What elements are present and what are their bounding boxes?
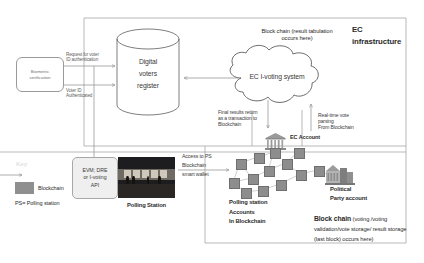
blockchain-node	[258, 186, 269, 197]
biometric-verification-label: Biometricverification	[30, 69, 51, 81]
polling-station-accounts-label: Polling station Accounts In Blockchain	[229, 198, 301, 227]
polling-station-caption: Polling Station	[116, 202, 177, 209]
biometric-verification-box[interactable]: Biometricverification	[16, 57, 64, 92]
photo-person	[158, 176, 161, 184]
realtime-parsing-label: Real-time vote parsing From Blockchain	[318, 113, 370, 131]
blockchain-node	[296, 170, 307, 181]
photo-person	[126, 176, 129, 184]
blockchain-node	[264, 166, 275, 177]
request-auth-label: Request for voter ID authentication	[66, 52, 114, 63]
legend-title: Key	[16, 160, 27, 167]
access-ps-label: Access to PS Blockchain smart wallet	[182, 152, 228, 179]
ec-ivoting-system-label: EC I-voting system	[236, 73, 318, 81]
blockchain-node	[248, 174, 259, 185]
photo-window	[160, 170, 167, 178]
photo-person	[132, 176, 135, 184]
polling-station-photo	[118, 157, 175, 198]
political-party-building-icon	[325, 164, 355, 185]
blockchain-node	[229, 178, 240, 189]
ec-infrastructure-label: EC infrastructure	[352, 24, 406, 47]
blockchain-node	[276, 180, 287, 191]
digital-voters-register-label: Digital voters register	[118, 58, 178, 90]
evm-dre-api-label: EVM; DRE or I-voting API	[82, 167, 107, 190]
photo-window	[151, 170, 158, 178]
ec-account-label: EC Account	[290, 134, 320, 140]
legend-blockchain-swatch	[15, 182, 34, 194]
auth-arrows	[62, 66, 115, 85]
legend-blockchain-label: Blockchain	[38, 185, 64, 191]
blockchain-node	[294, 148, 305, 159]
blockchain-node	[236, 159, 247, 170]
photo-person	[147, 176, 150, 184]
photo-floor	[118, 184, 175, 198]
blockchain-node	[270, 148, 281, 159]
blockchain-node	[314, 166, 325, 177]
legend-abbreviation-label: PS= Polling station	[15, 200, 59, 206]
blockchain-region-caption-bold: Block chain	[314, 215, 351, 222]
blockchain-region-caption: Block chain (voting /voting validation/v…	[314, 213, 418, 245]
diagram-canvas: Biometricverification Digital voters reg…	[0, 0, 424, 263]
blockchain-node	[254, 153, 265, 164]
blockchain-tabulation-label: Block chain (result tabulation occurs he…	[244, 28, 350, 42]
voter-authenticated-label: Voter ID Authenticated	[66, 88, 114, 99]
political-party-label: Political Party account	[330, 185, 380, 204]
evm-dre-api-box[interactable]: EVM; DRE or I-voting API	[72, 157, 118, 199]
blockchain-node	[282, 159, 293, 170]
final-results-label: Final results return as a transaction to…	[218, 110, 266, 128]
